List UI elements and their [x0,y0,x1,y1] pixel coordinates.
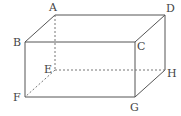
edge-gh [135,70,165,97]
vertex-label-f: F [13,91,21,104]
cuboid-diagram: ABCDEFGH [0,0,181,116]
vertex-label-b: B [13,36,21,49]
vertex-label-e: E [44,63,52,76]
vertex-label-d: D [166,2,175,15]
edge-ab [25,15,55,42]
vertex-label-g: G [130,101,139,114]
cuboid-edges [25,15,165,97]
vertex-label-c: C [137,40,145,53]
edge-cd [135,15,165,42]
vertex-label-h: H [167,67,177,80]
vertex-label-a: A [48,1,58,14]
